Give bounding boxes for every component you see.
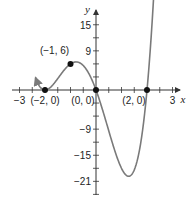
point-label: (2, 0) [122, 95, 145, 106]
point-marker [93, 87, 99, 93]
polynomial-graph: −33159−9−15−21xy (−1, 6)(−2, 0)(0, 0)(2,… [0, 0, 192, 203]
point-marker [68, 61, 74, 67]
x-tick-label: −3 [14, 95, 26, 106]
point-label: (−1, 6) [40, 45, 69, 56]
left-arrow-icon [36, 78, 37, 80]
y-tick-label: 15 [80, 20, 92, 31]
point-marker [42, 87, 48, 93]
y-axis-label: y [84, 3, 90, 15]
y-tick-label: 9 [85, 46, 91, 57]
x-axis-label: x [180, 93, 186, 105]
point-label: (−2, 0) [30, 95, 59, 106]
point-marker [144, 87, 150, 93]
y-tick-label: −21 [74, 176, 91, 187]
x-tick-label: 3 [170, 95, 176, 106]
point-label: (0, 0) [71, 95, 94, 106]
y-tick-label: −9 [80, 124, 92, 135]
y-tick-label: −15 [74, 150, 91, 161]
